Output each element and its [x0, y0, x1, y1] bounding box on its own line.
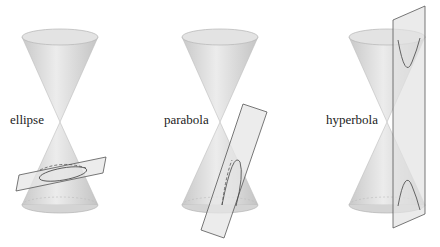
ellipse-label: ellipse	[10, 112, 44, 128]
hyperbola-label: hyperbola	[326, 112, 378, 128]
parabola-label: parabola	[164, 112, 209, 128]
cutting-plane	[393, 6, 425, 228]
parabola-panel	[182, 29, 267, 238]
